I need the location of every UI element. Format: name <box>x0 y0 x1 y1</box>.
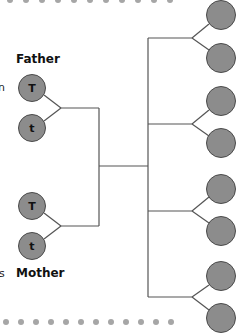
father-allele-dominant: T <box>18 74 46 102</box>
mother-allele-recessive: t <box>18 232 46 260</box>
cropped-text-fragment-top: n <box>0 81 5 94</box>
offspring-circle-1 <box>206 0 236 30</box>
father-allele-recessive: t <box>18 114 46 142</box>
offspring-circle-6 <box>206 216 236 246</box>
mother-allele-dominant: T <box>18 192 46 220</box>
offspring-circle-7 <box>206 261 236 291</box>
allele-text: T <box>28 82 36 95</box>
father-label: Father <box>16 52 60 66</box>
allele-text: t <box>29 122 34 135</box>
offspring-circle-3 <box>206 86 236 116</box>
offspring-circle-5 <box>206 174 236 204</box>
offspring-circle-2 <box>206 43 236 73</box>
offspring-circle-4 <box>206 128 236 158</box>
allele-text: t <box>29 240 34 253</box>
offspring-circle-8 <box>206 303 236 333</box>
cropped-text-fragment-bottom: s <box>0 267 5 280</box>
allele-text: T <box>28 200 36 213</box>
mother-label: Mother <box>16 266 65 280</box>
